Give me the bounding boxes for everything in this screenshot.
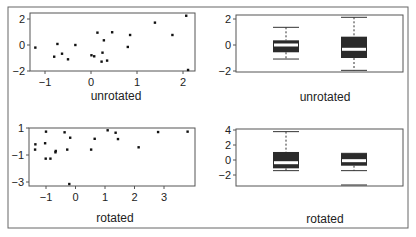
data-point (74, 44, 76, 46)
data-point (157, 131, 159, 133)
data-point (44, 142, 46, 144)
data-point (171, 34, 173, 36)
y-tick-label: 2 (19, 13, 25, 25)
x-tick-label: −1 (39, 76, 52, 88)
data-point (103, 39, 105, 41)
y-tick-label: 1 (18, 122, 24, 134)
data-point (100, 60, 102, 62)
data-point (68, 183, 70, 185)
data-point (93, 55, 95, 57)
data-point (61, 53, 63, 55)
label-top-left: unrotated (91, 89, 142, 103)
label-bottom-right: rotated (306, 212, 343, 226)
data-point (186, 130, 188, 132)
x-tick-label: 0 (88, 76, 94, 88)
data-point (137, 146, 139, 148)
data-point (187, 69, 189, 71)
y-tick-label: −2 (12, 65, 25, 77)
y-tick-label: 0 (225, 154, 231, 166)
y-tick-label: −2 (218, 169, 231, 181)
median-bar (342, 159, 366, 162)
x-tick-label: 1 (102, 191, 108, 203)
data-point (93, 138, 95, 140)
y-tick-label: −1 (11, 149, 24, 161)
figure: −202−1012−202−3−11−10123−2024 unrotated … (0, 0, 416, 237)
data-point (127, 46, 129, 48)
plot-area (236, 129, 403, 186)
x-tick-label: 3 (161, 191, 167, 203)
data-point (34, 143, 36, 145)
data-point (56, 43, 58, 45)
y-tick-label: 0 (19, 39, 25, 51)
x-tick-label: 2 (131, 191, 137, 203)
plot-area (29, 128, 195, 186)
data-point (106, 129, 108, 131)
y-tick-label: −3 (11, 176, 24, 188)
data-point (34, 148, 36, 150)
data-point (45, 130, 47, 132)
box (273, 152, 299, 168)
y-tick-label: 2 (225, 13, 231, 25)
data-point (69, 137, 71, 139)
data-point (185, 15, 187, 17)
data-point (67, 58, 69, 60)
box (341, 37, 367, 58)
y-tick-label: 4 (225, 124, 231, 136)
data-point (90, 148, 92, 150)
y-tick-label: 0 (225, 39, 231, 51)
data-point (154, 21, 156, 23)
data-point (111, 31, 113, 33)
data-point (53, 56, 55, 58)
data-point (96, 31, 98, 33)
data-point (63, 131, 65, 133)
x-tick-label: 2 (180, 76, 186, 88)
data-point (90, 54, 92, 56)
data-point (34, 46, 36, 48)
x-tick-label: 0 (72, 191, 78, 203)
label-bottom-left: rotated (96, 211, 133, 225)
data-point (49, 157, 51, 159)
label-top-right: unrotated (300, 90, 351, 104)
median-bar (274, 161, 298, 164)
data-point (106, 59, 108, 61)
data-point (45, 157, 47, 159)
plot-area (30, 13, 195, 71)
x-tick-label: 1 (134, 76, 140, 88)
data-point (129, 34, 131, 36)
data-point (117, 138, 119, 140)
y-tick-label: −2 (218, 65, 231, 77)
x-tick-label: −1 (40, 191, 53, 203)
median-bar (342, 48, 366, 51)
data-point (54, 151, 56, 153)
data-point (66, 148, 68, 150)
plot-area (236, 15, 403, 72)
data-point (101, 51, 103, 53)
y-tick-label: 2 (225, 139, 231, 151)
data-point (114, 132, 116, 134)
median-bar (274, 44, 298, 47)
